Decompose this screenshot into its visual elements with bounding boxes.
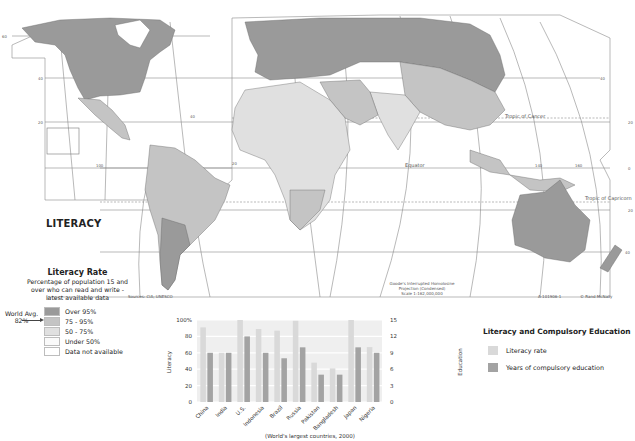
bar-education-nigeria xyxy=(374,353,380,402)
y-tick-label: 80 xyxy=(185,333,192,339)
map-code: A-101906-1 xyxy=(538,294,562,299)
bar-literacy-china xyxy=(200,327,206,402)
plot-background xyxy=(197,320,382,402)
y2-tick-label: 6 xyxy=(390,366,394,372)
x-axis-label: (World's largest countries, 2000) xyxy=(265,433,355,440)
legend-swatch xyxy=(44,307,60,316)
chart-legend-swatch xyxy=(488,346,498,355)
y-tick-label: 0 xyxy=(189,399,193,405)
x-tick-label: Russia xyxy=(285,404,302,421)
chart-legend-item: Years of compulsory education xyxy=(488,363,604,372)
legend-item: Over 95% xyxy=(44,306,123,316)
map-title: LITERACY xyxy=(46,218,101,229)
world-average-label: World Avg. xyxy=(5,310,38,317)
y2-tick-label: 12 xyxy=(390,333,397,339)
tropic-capricorn-label: Tropic of Capricorn xyxy=(584,195,632,202)
lon-label: 100 xyxy=(96,163,104,168)
legend-label: Under 50% xyxy=(65,338,100,345)
chart-legend-title: Literacy and Compulsory Education xyxy=(483,327,630,336)
bar-literacy-russia xyxy=(293,321,299,402)
y2-tick-label: 15 xyxy=(390,317,397,323)
legend-swatch xyxy=(44,337,60,346)
world-average-arrow-icon xyxy=(22,320,42,321)
bar-education-japan xyxy=(355,347,361,402)
south-america xyxy=(145,145,230,290)
y2-tick-label: 3 xyxy=(390,383,394,389)
lon-label: 140 xyxy=(535,163,543,168)
lon-label: 40 xyxy=(190,114,195,119)
bar-literacy-us xyxy=(237,320,243,402)
bar-literacy-bangladesh xyxy=(330,368,336,402)
new-zealand xyxy=(600,245,622,272)
lat-label: 20 xyxy=(628,120,633,125)
y-tick-label: 60 xyxy=(185,350,192,356)
equator-label: Equator xyxy=(405,162,426,169)
bar-education-india xyxy=(226,353,232,402)
legend-item: 75 - 95% xyxy=(44,316,123,326)
y2-axis-label: Education xyxy=(457,348,463,376)
legend-subtitle-line: Percentage of population 15 and xyxy=(0,278,155,286)
literacy-legend: Over 95% 75 - 95% 50 - 75% Under 50% Dat… xyxy=(44,306,123,356)
argentina xyxy=(160,218,190,290)
tropic-cancer-label: Tropic of Cancer xyxy=(504,113,546,120)
bar-education-pakistan xyxy=(318,375,324,402)
lat-label: 60 xyxy=(2,34,7,39)
bar-literacy-brazil xyxy=(274,331,280,402)
y-axis-label: Literacy xyxy=(166,350,173,373)
lat-label: 40 xyxy=(600,76,605,81)
literacy-education-chart: 020406080100%03691215 ChinaIndiaU.S.Indo… xyxy=(160,312,490,441)
x-tick-label: India xyxy=(214,404,228,418)
world-average: World Avg. 82% xyxy=(5,310,38,324)
lat-label: 20 xyxy=(628,208,633,213)
x-tick-label: Japan xyxy=(342,404,359,421)
legend-label: 50 - 75% xyxy=(65,328,93,335)
legend-item: 50 - 75% xyxy=(44,326,123,336)
y2-tick-label: 9 xyxy=(390,350,394,356)
y-tick-label: 20 xyxy=(185,383,192,389)
copyright: © Rand McNally xyxy=(580,294,613,299)
world-literacy-map: Tropic of Cancer Tropic of Capricorn Equ… xyxy=(0,0,635,300)
legend-subtitle: Percentage of population 15 and over who… xyxy=(0,278,155,302)
y-tick-label: 40 xyxy=(185,366,192,372)
y-tick-label: 100% xyxy=(176,317,192,323)
chart-grid xyxy=(197,320,382,402)
bar-literacy-indonesia xyxy=(256,329,262,402)
lat-label: 20 xyxy=(38,120,43,125)
lat-label: 40 xyxy=(38,76,43,81)
legend-subtitle-line: over who can read and write - xyxy=(0,286,155,294)
lon-label: 20 xyxy=(232,161,237,166)
bar-education-china xyxy=(207,353,213,402)
legend-subtitle-line: latest available data xyxy=(0,294,155,302)
chart-legend-label: Years of compulsory education xyxy=(506,364,604,372)
lon-label: 160 xyxy=(575,163,583,168)
x-tick-label: Brazil xyxy=(268,404,283,419)
scale-note: Scale 1:162,000,000 xyxy=(401,291,443,296)
legend-label: Data not available xyxy=(65,348,123,355)
chart-legend-item: Literacy rate xyxy=(488,346,547,355)
map-inset xyxy=(47,128,79,154)
legend-swatch xyxy=(44,347,60,356)
legend-title: Literacy Rate xyxy=(0,268,155,277)
bar-education-indonesia xyxy=(263,353,269,402)
x-tick-label: Nigeria xyxy=(358,404,377,423)
bar-education-brazil xyxy=(281,358,287,402)
bar-literacy-nigeria xyxy=(367,347,373,402)
y2-tick-label: 0 xyxy=(390,399,394,405)
legend-swatch xyxy=(44,327,60,336)
legend-label: 75 - 95% xyxy=(65,318,93,325)
chart-legend-swatch xyxy=(488,363,498,372)
x-tick-label: China xyxy=(194,404,209,419)
mexico-central-america xyxy=(78,98,130,140)
bar-education-russia xyxy=(300,347,306,402)
chart-x-labels: ChinaIndiaU.S.IndonesiaBrazilRussiaPakis… xyxy=(194,404,377,432)
legend-item: Data not available xyxy=(44,346,123,356)
chart-legend-label: Literacy rate xyxy=(506,347,547,355)
bar-literacy-japan xyxy=(348,320,354,402)
legend-item: Under 50% xyxy=(44,336,123,346)
bar-education-bangladesh xyxy=(337,375,343,402)
bar-literacy-pakistan xyxy=(311,363,317,402)
australia xyxy=(512,180,590,262)
lat-label: 0 xyxy=(628,166,631,171)
x-tick-label: U.S. xyxy=(235,404,247,416)
legend-label: Over 95% xyxy=(65,308,96,315)
